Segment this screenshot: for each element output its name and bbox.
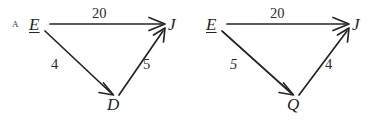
node-label-j: J — [168, 16, 176, 33]
node-label-e: E — [206, 16, 217, 33]
node-label-j: J — [352, 16, 360, 33]
graph-diagram-a: A E J D 20 4 5 — [0, 0, 196, 124]
edge-q-to-j — [299, 28, 349, 95]
figure-canvas: A E J D 20 4 5 — [0, 0, 384, 124]
node-label-q: Q — [287, 96, 299, 113]
edge-weight-e-j: 20 — [270, 6, 285, 21]
node-label-e: E — [29, 16, 40, 33]
node-label-d: D — [107, 96, 119, 113]
edge-d-to-j — [119, 28, 165, 95]
edge-e-to-j — [227, 18, 349, 31]
edge-weight-d-j: 5 — [143, 57, 150, 72]
graph-diagram-b: E J Q 20 5 4 — [192, 0, 384, 124]
edge-weight-e-d: 4 — [51, 57, 58, 72]
edge-weight-q-j: 4 — [325, 57, 332, 72]
edge-weight-e-j: 20 — [92, 6, 107, 21]
figure-tag-a: A — [12, 20, 19, 29]
edge-e-to-j — [50, 18, 165, 31]
edge-weight-e-q: 5 — [230, 57, 237, 72]
